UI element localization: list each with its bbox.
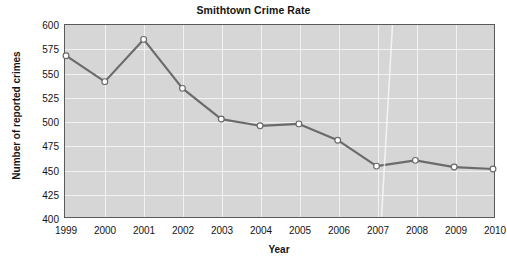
data-point-marker	[412, 157, 418, 163]
y-axis-tick-label: 600	[25, 20, 59, 31]
x-axis-tick-label: 2010	[472, 225, 507, 236]
series-polyline	[66, 39, 493, 169]
y-axis-tick-label: 525	[25, 92, 59, 103]
y-axis-tick-label: 575	[25, 44, 59, 55]
y-axis-tick-label: 400	[25, 214, 59, 225]
x-axis-title: Year	[64, 244, 494, 255]
data-point-marker	[102, 79, 108, 85]
data-series-line	[65, 25, 494, 217]
data-point-marker	[451, 164, 457, 170]
y-axis-tick-label: 500	[25, 117, 59, 128]
data-point-marker	[374, 163, 380, 169]
y-axis-tick-label: 425	[25, 189, 59, 200]
scan-artifact-streak	[382, 25, 393, 217]
y-axis-tick-label: 450	[25, 165, 59, 176]
chart-figure: Smithtown Crime Rate Number of reported …	[0, 0, 507, 264]
data-point-marker	[490, 166, 496, 172]
chart-title: Smithtown Crime Rate	[0, 4, 507, 16]
data-point-marker	[63, 53, 69, 59]
y-axis-tick-label: 550	[25, 68, 59, 79]
data-point-marker	[180, 85, 186, 91]
data-point-marker	[296, 121, 302, 127]
y-axis-tick-label: 475	[25, 141, 59, 152]
data-point-marker	[257, 123, 263, 129]
data-point-marker	[335, 137, 341, 143]
data-point-marker	[141, 37, 147, 43]
plot-area: 400425450475500525550575600 199920002001…	[64, 24, 495, 218]
data-point-marker	[218, 116, 224, 122]
y-axis-title: Number of reported crimes	[11, 16, 22, 216]
